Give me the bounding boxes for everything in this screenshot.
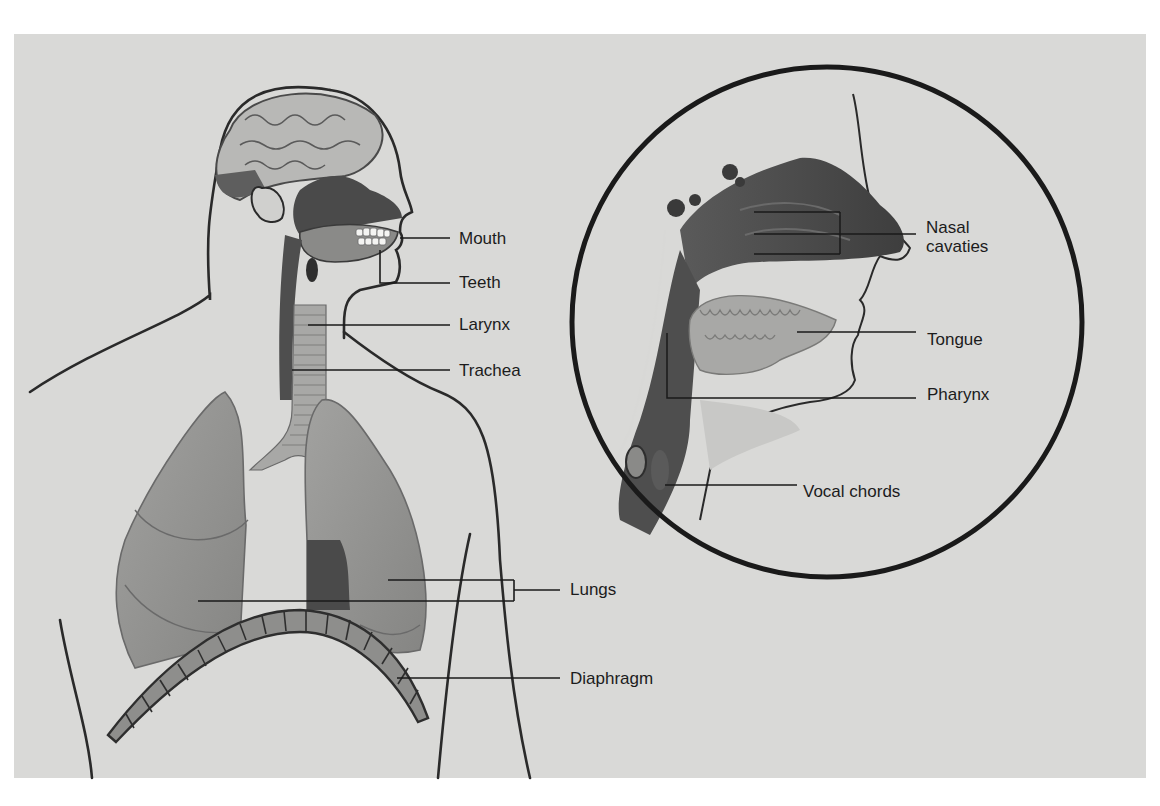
label-nasal-line1: Nasal (926, 218, 988, 237)
left-lung-illustration (116, 392, 248, 668)
epiglottis (306, 258, 318, 282)
label-pharynx: Pharynx (927, 385, 989, 404)
ear-illustration (252, 187, 284, 222)
label-tongue: Tongue (927, 330, 983, 349)
inset-tongue-illustration (689, 296, 836, 375)
body-outline (30, 87, 530, 778)
label-vocal-chords: Vocal chords (803, 482, 900, 501)
label-mouth: Mouth (459, 229, 506, 248)
label-larynx: Larynx (459, 315, 510, 334)
label-trachea: Trachea (459, 361, 521, 380)
label-nasal-line2: cavaties (926, 237, 988, 256)
label-teeth: Teeth (459, 273, 501, 292)
label-diaphragm: Diaphragm (570, 669, 653, 688)
label-lungs: Lungs (570, 580, 616, 599)
label-nasal-cavaties: Nasal cavaties (926, 218, 988, 256)
